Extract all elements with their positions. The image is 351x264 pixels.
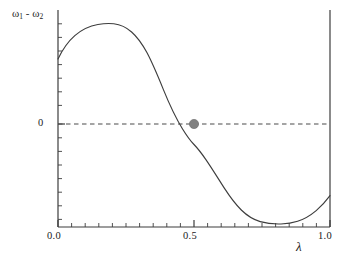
y-axis-label-minus: - — [23, 7, 32, 19]
y-axis-label-omega2-subscript: 2 — [39, 12, 43, 21]
y-axis-label-omega1-subscript: 1 — [19, 12, 23, 21]
x-axis-label: λ — [296, 240, 302, 253]
x-tick-label-1: 0.5 — [183, 231, 197, 242]
plot-canvas — [0, 0, 351, 264]
y-tick-label-0: 0 — [38, 118, 44, 129]
chart-figure: ω1 - ω2 λ 0 0.0 0.5 1.0 — [0, 0, 351, 264]
axis-spines — [58, 10, 330, 227]
zero-crossing-marker — [189, 119, 198, 128]
y-axis-label: ω1 - ω2 — [12, 8, 43, 19]
x-tick-label-0: 0.0 — [47, 231, 61, 242]
x-tick-label-2: 1.0 — [318, 231, 332, 242]
